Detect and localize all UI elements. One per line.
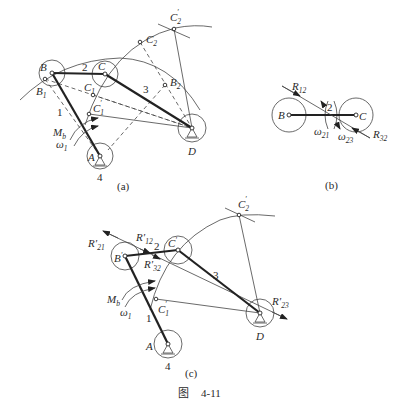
label-R23: R′23 bbox=[271, 295, 289, 310]
label-omega1: ω1 bbox=[120, 306, 132, 321]
label-C2p: C2′ bbox=[170, 8, 181, 26]
figure-caption: 图4-11 bbox=[178, 387, 221, 399]
force-arrow-R23 bbox=[272, 312, 287, 319]
label-C: C bbox=[359, 110, 367, 122]
panel-a: B C D A B1 C1 C1′ C2 C2′ B2 2 3 1 4 Mb ω… bbox=[20, 8, 212, 193]
label-B1: B1 bbox=[36, 85, 46, 100]
force-line bbox=[105, 232, 285, 318]
point-D bbox=[258, 311, 262, 315]
label-D: D bbox=[187, 145, 196, 157]
dash-C1-D bbox=[93, 95, 192, 128]
label-A: A bbox=[145, 340, 153, 352]
panel-a-label: (a) bbox=[117, 180, 130, 193]
point-C2p bbox=[172, 27, 176, 31]
panel-b: B C 2 R12 R32 ω21 ω23 (b) bbox=[272, 80, 387, 192]
label-omega23: ω23 bbox=[338, 130, 354, 145]
omega21-arrow bbox=[321, 101, 325, 107]
panel-c-label: (c) bbox=[185, 367, 198, 380]
point-C1p bbox=[87, 112, 91, 116]
omega23-arrow bbox=[336, 122, 340, 129]
label-C1: C1 bbox=[84, 81, 95, 96]
label-D: D bbox=[255, 330, 264, 342]
label-link-3: 3 bbox=[143, 83, 149, 95]
omega-arrow-c bbox=[125, 288, 155, 307]
label-C1p: C1′ bbox=[158, 300, 169, 318]
label-B: B bbox=[40, 61, 47, 73]
label-R32: R′32 bbox=[143, 258, 161, 273]
label-link-4: 4 bbox=[97, 171, 103, 183]
label-B2: B2 bbox=[170, 76, 181, 91]
label-R12: R′12 bbox=[135, 231, 153, 246]
label-C2p: C2′ bbox=[238, 195, 249, 213]
label-link-2: 2 bbox=[82, 61, 88, 73]
label-C1p: C1′ bbox=[93, 99, 104, 117]
figure-4-11: B C D A B1 C1 C1′ C2 C2′ B2 2 3 1 4 Mb ω… bbox=[0, 0, 395, 409]
point-B bbox=[50, 71, 54, 75]
point-C1p bbox=[154, 297, 158, 301]
label-B: B bbox=[278, 109, 285, 121]
panel-c: B′ C′ D A C1′ C2′ 2 3 1 4 R′21 R′12 R′32… bbox=[87, 195, 289, 380]
label-Bp: B′ bbox=[114, 251, 123, 264]
point-D bbox=[190, 126, 194, 130]
point-A bbox=[98, 154, 102, 158]
label-link-2: 2 bbox=[327, 101, 333, 113]
point-B bbox=[287, 113, 291, 117]
link-2-BpCp bbox=[125, 250, 178, 256]
label-R32: R32 bbox=[372, 128, 387, 143]
point-B2 bbox=[163, 83, 167, 87]
force-arrow-R32 bbox=[152, 255, 160, 259]
point-Bp bbox=[123, 254, 127, 258]
point-C2p bbox=[237, 213, 241, 217]
label-A: A bbox=[87, 151, 95, 163]
force-arrow-R21 bbox=[103, 231, 118, 238]
label-link-1: 1 bbox=[57, 106, 63, 118]
point-A bbox=[166, 342, 170, 346]
link-2-BC bbox=[52, 73, 105, 74]
force-arrow-R32 bbox=[352, 128, 370, 138]
label-link-1: 1 bbox=[146, 312, 152, 324]
label-Cp: C′ bbox=[168, 236, 177, 249]
line-C1p-D bbox=[89, 114, 192, 128]
panel-b-label: (b) bbox=[325, 179, 338, 192]
point-C2 bbox=[138, 40, 142, 44]
point-C bbox=[354, 113, 358, 117]
label-C: C bbox=[98, 60, 106, 72]
label-link-3: 3 bbox=[213, 269, 219, 281]
point-B1 bbox=[43, 77, 47, 81]
label-link-2: 2 bbox=[154, 240, 160, 252]
label-R21: R′21 bbox=[87, 237, 105, 252]
point-Cp bbox=[176, 248, 180, 252]
label-moment-Mb: Mb bbox=[106, 293, 120, 308]
label-link-4: 4 bbox=[165, 360, 171, 372]
point-C bbox=[103, 72, 107, 76]
